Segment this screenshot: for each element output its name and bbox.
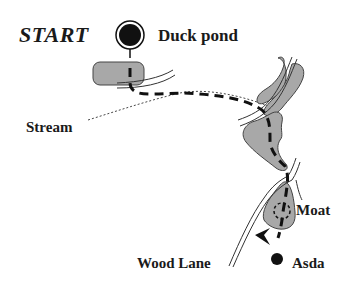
wood-lane-label: Wood Lane <box>137 256 211 271</box>
asda-marker-icon <box>271 253 283 265</box>
asda-label: Asda <box>292 256 325 271</box>
direction-arrow-icon <box>255 228 270 245</box>
stream-label: Stream <box>26 120 72 135</box>
moat-label: Moat <box>296 203 330 218</box>
start-label: START <box>19 24 89 46</box>
start-marker-icon <box>116 21 144 58</box>
duck-pond-label: Duck pond <box>158 27 238 44</box>
stream-bank <box>296 180 302 200</box>
stream-line <box>88 91 268 120</box>
